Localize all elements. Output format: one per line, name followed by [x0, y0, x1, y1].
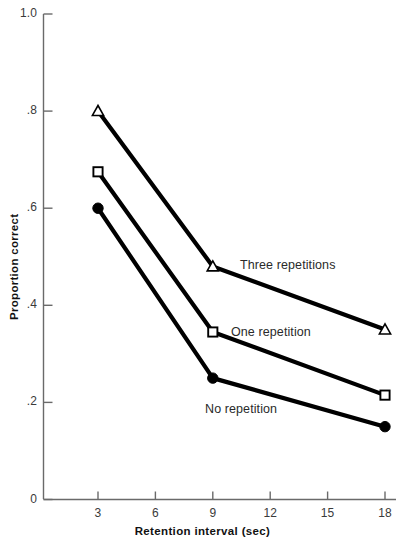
x-tick-label: 15	[308, 506, 348, 520]
data-point-marker	[93, 203, 103, 213]
y-tick-label: .8	[0, 103, 37, 117]
data-point-marker	[208, 373, 218, 383]
line-chart-plot	[0, 0, 405, 544]
x-tick-label: 3	[78, 506, 118, 520]
y-axis-ticks	[44, 14, 53, 500]
x-tick-label: 6	[135, 506, 175, 520]
data-point-marker	[92, 106, 103, 116]
data-point-marker	[380, 421, 390, 431]
x-tick-label: 18	[365, 506, 405, 520]
y-axis-title: Proportion correct	[8, 214, 20, 320]
x-axis-ticks	[98, 492, 385, 500]
y-tick-label: .2	[0, 394, 37, 408]
data-point-marker	[208, 327, 217, 336]
x-tick-label: 12	[250, 506, 290, 520]
series-label-three-repetitions: Three repetitions	[240, 258, 336, 272]
series-three-repetitions	[92, 106, 390, 334]
data-point-marker	[93, 167, 102, 176]
axes	[44, 14, 397, 500]
series-line	[98, 172, 385, 395]
y-tick-label: .6	[0, 200, 37, 214]
x-tick-label: 9	[193, 506, 233, 520]
series-line	[98, 208, 385, 426]
series-line	[98, 111, 385, 329]
data-point-marker	[380, 391, 389, 400]
series-label-no-repetition: No repetition	[205, 402, 277, 416]
x-axis-title: Retention interval (sec)	[0, 525, 405, 537]
chart-figure: 0.2.4.6.81.0 369121518 Three repetitions…	[0, 0, 405, 544]
series-no-repetition	[93, 203, 390, 432]
y-tick-label: 0	[0, 492, 37, 506]
y-tick-label: 1.0	[0, 6, 37, 20]
series-label-one-repetition: One repetition	[231, 325, 311, 339]
series-one-repetition	[93, 167, 389, 400]
